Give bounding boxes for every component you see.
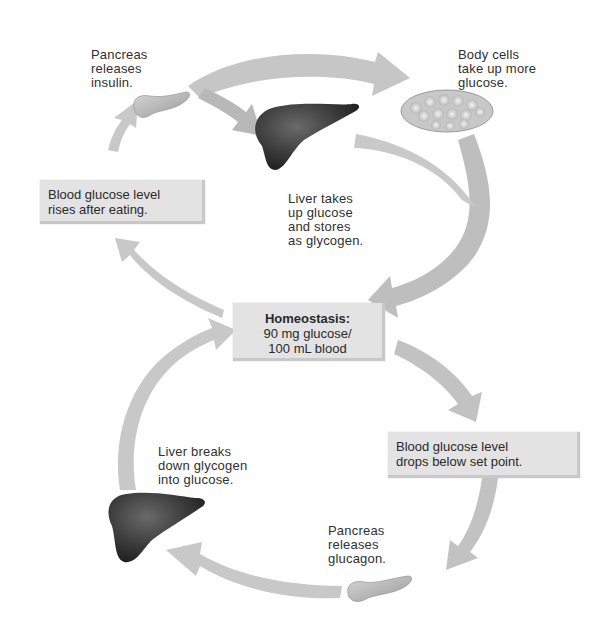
body-cells-icon <box>401 90 493 132</box>
label-liver-breaks-glycogen: Liver breaks down glycogen into glucose. <box>158 445 247 487</box>
glucose-homeostasis-diagram: Pancreas releases insulin. Body cells ta… <box>0 0 609 641</box>
arrow-pancreas-to-body-cells <box>188 52 410 98</box>
pancreas-upper-icon <box>134 92 190 117</box>
arrow-pancreas-to-liver <box>198 88 262 136</box>
arrow-liver-to-homeostasis <box>354 134 476 208</box>
arrow-stimulus-to-pancreas <box>108 100 138 152</box>
arrow-pancreas-to-liver <box>166 542 342 598</box>
box-glucose-rises: Blood glucose level rises after eating. <box>40 180 205 224</box>
pancreas-lower-icon <box>348 576 412 601</box>
arrow-homeostasis-to-drop <box>394 340 482 422</box>
arrow-homeostasis-to-rise <box>115 238 224 318</box>
arrow-body-cells-to-homeostasis <box>368 134 490 318</box>
label-body-cells: Body cells take up more glucose. <box>458 48 536 90</box>
box-homeostasis-set-point: Homeostasis: 90 mg glucose/ 100 mL blood <box>233 303 385 361</box>
arrow-drop-to-pancreas <box>446 478 498 570</box>
liver-upper-icon <box>255 104 359 170</box>
box-glucose-drops: Blood glucose level drops below set poin… <box>388 432 580 478</box>
label-pancreas-glucagon: Pancreas releases glucagon. <box>328 524 386 566</box>
label-liver-stores-glycogen: Liver takes up glucose and stores as gly… <box>288 192 363 248</box>
label-pancreas-insulin: Pancreas releases insulin. <box>91 48 148 90</box>
